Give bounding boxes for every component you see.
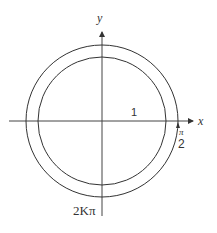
y-axis-label: y: [97, 12, 102, 24]
fraction-denominator: 2: [178, 138, 185, 150]
fraction-numerator: π: [179, 128, 184, 137]
pi-over-two-label: π 2: [178, 128, 185, 150]
diagram: y x 1 π 2 2Kπ: [0, 0, 217, 233]
radius-label: 1: [131, 107, 137, 118]
x-axis-label: x: [198, 115, 203, 127]
diagram-canvas: [0, 0, 217, 233]
bottom-label: 2Kπ: [73, 204, 95, 217]
